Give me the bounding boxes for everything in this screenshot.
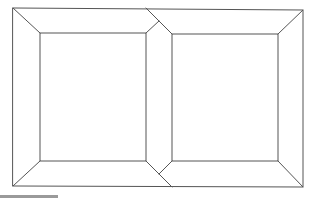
left-top-left-miter — [13, 8, 40, 33]
frame-diagram — [0, 0, 312, 198]
left-bottom-left-miter — [13, 161, 40, 186]
left-inner-panel — [40, 33, 146, 161]
center-top-diagonal-b — [146, 21, 159, 33]
right-bottom-right-miter — [278, 161, 303, 187]
right-inner-panel — [172, 34, 278, 161]
outer-frame — [13, 8, 303, 187]
footer-bar — [0, 195, 58, 198]
right-top-right-miter — [278, 10, 303, 34]
center-bottom-diagonal-b — [159, 161, 172, 174]
